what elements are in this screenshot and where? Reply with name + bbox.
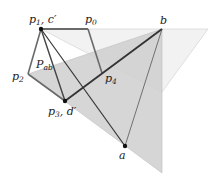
- label-p1: p1, c′: [29, 13, 57, 27]
- label-p0: p0: [85, 13, 97, 27]
- point-p3: [63, 99, 67, 103]
- label-p3: p3, d′: [48, 105, 77, 119]
- label-pab: Pab: [35, 58, 53, 72]
- label-b: b: [160, 14, 167, 27]
- label-p2: p2: [12, 70, 24, 84]
- label-a: a: [119, 149, 126, 162]
- geometry-diagram: p1, c′ p0 p2 p3, d′ p4 Pab a b: [0, 0, 217, 182]
- point-p1: [39, 27, 43, 31]
- point-a: [123, 144, 127, 148]
